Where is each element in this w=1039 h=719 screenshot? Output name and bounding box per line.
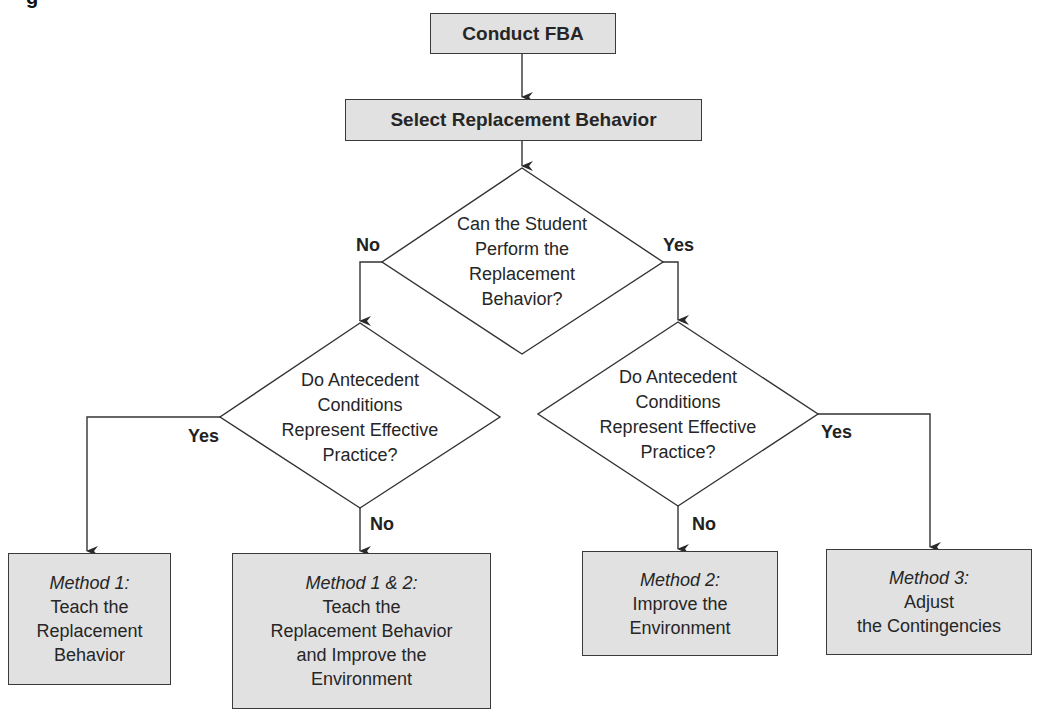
decision-main-line: Can the Student [457,212,587,237]
outcome-method-3-box: Method 3: Adjust the Contingencies [826,549,1032,655]
outcome-line: Environment [311,667,412,691]
decision-right-line: Represent Effective [600,415,757,440]
decision-left-line: Practice? [322,443,397,468]
outcome-method-1-box: Method 1: Teach the Replacement Behavior [8,553,171,685]
decision-main-text: Can the Student Perform the Replacement … [422,212,622,312]
decision-right-text: Do Antecedent Conditions Represent Effec… [573,365,783,465]
conduct-fba-box: Conduct FBA [430,13,616,54]
outcome-method-title: Method 1: [49,571,129,595]
outcome-method-title: Method 3: [889,566,969,590]
decision-left-line: Conditions [317,393,402,418]
decision-left-line: Represent Effective [282,418,439,443]
select-replacement-behavior-label: Select Replacement Behavior [390,108,656,132]
outcome-line: Adjust [904,590,954,614]
decision-right-yes-label: Yes [821,422,852,443]
decision-right-line: Conditions [635,390,720,415]
decision-right-line: Do Antecedent [619,365,737,390]
arrow-main-no [360,262,382,321]
outcome-line: Teach the [50,595,128,619]
outcome-method-title: Method 2: [640,568,720,592]
outcome-line: and Improve the [296,643,426,667]
conduct-fba-label: Conduct FBA [462,22,583,46]
outcome-line: Improve the [632,592,727,616]
decision-left-yes-label: Yes [188,426,219,447]
decision-left-text: Do Antecedent Conditions Represent Effec… [255,368,465,468]
outcome-line: Replacement Behavior [270,619,452,643]
decision-left-no-label: No [370,514,394,535]
decision-main-yes-label: Yes [663,235,694,256]
outcome-line: Behavior [54,643,125,667]
decision-main-line: Replacement [469,262,575,287]
decision-right-line: Practice? [640,440,715,465]
outcome-method-title: Method 1 & 2: [305,571,417,595]
decision-main-line: Behavior? [481,287,562,312]
decision-main-no-label: No [356,235,380,256]
outcome-line: Replacement [36,619,142,643]
outcome-line: Teach the [322,595,400,619]
decision-main-line: Perform the [475,237,569,262]
outcome-line: the Contingencies [857,614,1001,638]
outcome-line: Environment [629,616,730,640]
decision-right-no-label: No [692,514,716,535]
decision-left-line: Do Antecedent [301,368,419,393]
outcome-method-2-box: Method 2: Improve the Environment [582,551,778,656]
arrow-main-yes [663,262,678,320]
outcome-method-1-2-box: Method 1 & 2: Teach the Replacement Beha… [232,553,491,709]
select-replacement-behavior-box: Select Replacement Behavior [345,99,702,141]
